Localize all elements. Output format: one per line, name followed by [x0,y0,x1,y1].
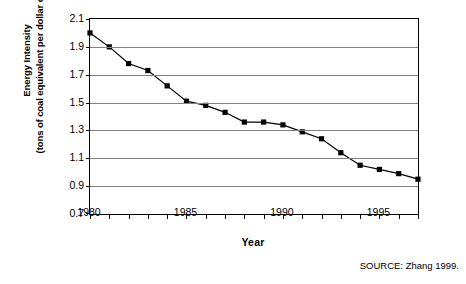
y-axis-tick-mark [86,186,90,187]
x-axis-tick-mark [264,214,265,219]
series-svg [90,19,418,214]
x-axis-tick-label: 1985 [174,206,197,218]
x-axis-tick-mark [129,214,130,219]
series-markers [87,30,420,181]
y-axis-tick-label: 1.1 [56,152,84,162]
x-axis-tick-mark [244,214,245,219]
y-axis-title: Energy Intensity (tons of coal equivalen… [8,0,54,230]
x-axis-tick-mark [322,214,323,219]
y-axis-tick-labels: 2.11.91.71.51.31.10.90.7 [56,0,84,230]
gridline [90,186,418,187]
data-point-marker [242,119,247,124]
data-point-marker [338,150,343,155]
y-axis-tick-mark [86,103,90,104]
x-axis-tick-mark [167,214,168,219]
y-axis-tick-label: 1.5 [56,97,84,107]
data-point-marker [319,136,324,141]
gridline [90,158,418,159]
y-axis-tick-mark [86,158,90,159]
data-point-marker [377,167,382,172]
data-point-marker [396,171,401,176]
x-axis-tick-mark [360,214,361,219]
x-axis-tick-mark [109,214,110,219]
gridline [90,130,418,131]
x-axis-tick-mark [302,214,303,219]
data-point-marker [87,30,92,35]
y-axis-title-line-2: (tons of coal equivalent per dollar of G… [33,0,46,166]
data-point-marker [145,68,150,73]
x-axis-tick-label: 1990 [270,206,293,218]
data-point-marker [126,61,131,66]
x-axis-title: Year [89,236,417,248]
y-axis-tick-label: 1.3 [56,124,84,134]
data-point-marker [415,177,420,182]
energy-intensity-chart-figure: Energy Intensity (tons of coal equivalen… [0,0,466,284]
data-point-marker [222,110,227,115]
y-axis-tick-label: 1.9 [56,41,84,51]
y-axis-tick-label: 0.9 [56,180,84,190]
gridline [90,103,418,104]
gridline [90,75,418,76]
x-axis-tick-mark [418,214,419,219]
gridline [90,47,418,48]
x-axis-tick-mark [225,214,226,219]
plot-area [89,18,419,215]
y-axis-tick-label: 1.7 [56,69,84,79]
y-axis-tick-mark [86,19,90,20]
x-axis-tick-mark [341,214,342,219]
data-point-marker [261,119,266,124]
y-axis-tick-label: 2.1 [56,13,84,23]
x-axis-tick-mark [148,214,149,219]
y-axis-tick-mark [86,47,90,48]
x-axis-tick-label: 1980 [77,206,100,218]
x-axis-tick-label: 1995 [367,206,390,218]
source-note: SOURCE: Zhang 1999. [360,260,459,272]
data-point-marker [358,163,363,168]
x-axis-tick-mark [399,214,400,219]
y-axis-tick-mark [86,130,90,131]
data-point-marker [165,83,170,88]
x-axis-tick-mark [206,214,207,219]
data-point-marker [280,122,285,127]
y-axis-title-line-1: Energy Intensity [20,0,33,166]
y-axis-tick-mark [86,75,90,76]
